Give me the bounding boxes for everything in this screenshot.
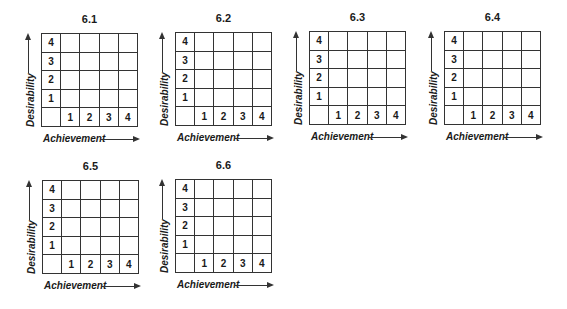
y-axis-label: Desirability — [293, 71, 304, 125]
matrix-cell — [81, 200, 100, 219]
matrix-cell — [387, 51, 406, 70]
matrix-cell — [329, 32, 348, 51]
panel-title: 6.1 — [41, 13, 138, 25]
matrix-grid: 43211234 — [175, 179, 272, 273]
matrix-cell — [483, 32, 502, 51]
matrix-cell — [81, 181, 100, 200]
matrix-cell — [483, 88, 502, 107]
matrix-cell — [214, 236, 233, 255]
matrix-cell — [522, 51, 541, 70]
column-label-cell: 4 — [253, 254, 272, 273]
column-label-cell: 2 — [80, 108, 99, 127]
arrow-right-icon — [267, 282, 274, 288]
matrix-cell — [387, 69, 406, 88]
matrix-panel: 6.343211234DesirabilityAchievement — [287, 0, 427, 149]
row-label-cell: 2 — [445, 69, 464, 88]
x-axis-arrow-line — [235, 138, 268, 139]
matrix-cell — [61, 34, 80, 53]
matrix-cell — [253, 199, 272, 218]
matrix-cell — [253, 52, 272, 71]
matrix-cell — [483, 51, 502, 70]
column-label-cell: 2 — [214, 254, 233, 273]
matrix-cell — [100, 90, 119, 109]
matrix-panel: 6.643211234DesirabilityAchievement — [153, 147, 293, 297]
row-label-cell: 2 — [310, 69, 329, 88]
x-axis-arrow-line — [102, 286, 135, 287]
corner-cell — [176, 107, 195, 126]
column-label-cell: 1 — [62, 255, 81, 274]
column-label-cell: 2 — [214, 107, 233, 126]
matrix-cell — [195, 236, 214, 255]
matrix-cell — [234, 236, 253, 255]
matrix-cell — [522, 88, 541, 107]
column-label-cell: 3 — [101, 255, 120, 274]
row-label-cell: 3 — [42, 53, 61, 72]
panel-title: 6.3 — [309, 11, 406, 23]
x-axis-label: Achievement — [44, 280, 106, 291]
matrix-cell — [464, 51, 483, 70]
matrix-cell — [368, 51, 387, 70]
row-label-cell: 1 — [445, 88, 464, 107]
row-label-cell: 4 — [176, 180, 195, 199]
y-axis-arrow-line — [162, 185, 163, 219]
matrix-cell — [119, 53, 138, 72]
column-label-cell: 1 — [195, 254, 214, 273]
matrix-cell — [253, 180, 272, 199]
column-label-cell: 2 — [81, 255, 100, 274]
matrix-cell — [120, 218, 139, 237]
row-label-cell: 3 — [310, 51, 329, 70]
matrix-cell — [100, 34, 119, 53]
column-label-cell: 1 — [464, 106, 483, 125]
x-axis-label: Achievement — [446, 131, 508, 142]
matrix-cell — [253, 89, 272, 108]
matrix-cell — [101, 237, 120, 256]
panel-title: 6.5 — [42, 160, 139, 172]
arrow-right-icon — [134, 283, 141, 289]
x-axis-label: Achievement — [177, 132, 239, 143]
matrix-cell — [214, 70, 233, 89]
y-axis-arrow-line — [29, 186, 30, 220]
matrix-grid: 43211234 — [309, 31, 406, 125]
column-label-cell: 4 — [387, 106, 406, 125]
row-label-cell: 2 — [176, 70, 195, 89]
matrix-cell — [234, 180, 253, 199]
column-label-cell: 1 — [61, 108, 80, 127]
matrix-cell — [214, 89, 233, 108]
matrix-cell — [503, 32, 522, 51]
row-label-cell: 1 — [42, 90, 61, 109]
matrix-cell — [195, 33, 214, 52]
y-axis-label: Desirability — [159, 219, 170, 273]
matrix-cell — [329, 88, 348, 107]
arrow-right-icon — [536, 134, 543, 140]
matrix-cell — [62, 200, 81, 219]
matrix-cell — [214, 52, 233, 71]
x-axis-label: Achievement — [311, 131, 373, 142]
matrix-cell — [503, 69, 522, 88]
matrix-cell — [120, 181, 139, 200]
matrix-cell — [119, 34, 138, 53]
y-axis-arrow-line — [296, 37, 297, 71]
panel-title: 6.6 — [175, 159, 272, 171]
matrix-cell — [234, 217, 253, 236]
column-label-cell: 3 — [368, 106, 387, 125]
matrix-cell — [195, 217, 214, 236]
column-label-cell: 4 — [253, 107, 272, 126]
corner-cell — [310, 106, 329, 125]
matrix-cell — [120, 200, 139, 219]
panel-title: 6.2 — [175, 12, 272, 24]
y-axis-arrow-line — [431, 37, 432, 71]
matrix-cell — [195, 52, 214, 71]
matrix-cell — [80, 71, 99, 90]
matrix-cell — [195, 70, 214, 89]
matrix-cell — [195, 180, 214, 199]
matrix-cell — [348, 88, 367, 107]
y-axis-label: Desirability — [428, 71, 439, 125]
matrix-cell — [61, 71, 80, 90]
row-label-cell: 3 — [176, 199, 195, 218]
column-label-cell: 3 — [100, 108, 119, 127]
matrix-cell — [503, 88, 522, 107]
matrix-cell — [80, 53, 99, 72]
matrix-cell — [253, 217, 272, 236]
matrix-cell — [100, 71, 119, 90]
matrix-cell — [368, 88, 387, 107]
